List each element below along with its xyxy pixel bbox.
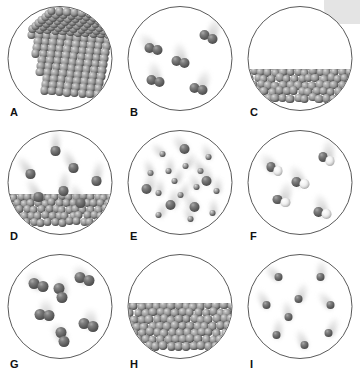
panel-g-content — [9, 255, 112, 358]
large-gas-atom — [166, 200, 176, 210]
panel-label-b: B — [130, 106, 138, 118]
panel-cell-b: B — [120, 0, 240, 124]
vapor-atom — [69, 163, 78, 172]
liquid-atom — [108, 219, 111, 227]
large-gas-atom — [190, 202, 200, 212]
diatomic-molecule-atom-2 — [38, 281, 49, 292]
diatomic-molecule-atom-2 — [83, 275, 94, 286]
panel-e-content — [129, 131, 232, 234]
diatomic-molecule-atom-2 — [155, 77, 165, 87]
diatomic-molecule-atom-2 — [87, 321, 98, 332]
heteronuclear-molecule-atom-2 — [281, 198, 291, 208]
small-gas-atom — [155, 190, 161, 196]
large-gas-atom — [202, 176, 212, 186]
vapor-atom — [59, 186, 68, 195]
vapor-atom — [51, 146, 60, 155]
small-gas-atom — [159, 151, 165, 157]
panel-label-a: A — [10, 106, 18, 118]
liquid-atom — [85, 218, 93, 226]
small-gas-atom — [193, 184, 199, 190]
panel-b-diatomic-gas[interactable] — [128, 6, 233, 111]
liquid-body — [9, 194, 112, 234]
panel-h-content — [129, 255, 232, 358]
panel-cell-d: D — [0, 124, 120, 248]
diatomic-molecule-atom-2 — [152, 45, 162, 55]
large-gas-atom — [180, 144, 190, 154]
lattice-atom — [108, 11, 112, 20]
vapor-atom — [76, 198, 85, 207]
panel-f-content — [249, 131, 352, 234]
liquid-atom — [159, 341, 168, 350]
particle-diagram-figure: A B C D E — [0, 0, 360, 382]
vapor-atom — [92, 176, 101, 185]
liquid-atom — [330, 95, 338, 103]
panel-h-liquid[interactable] — [128, 254, 233, 359]
liquid-atom — [300, 95, 308, 103]
liquid-atom — [100, 219, 108, 227]
heteronuclear-molecule-atom-2 — [273, 166, 283, 176]
vapor-atom — [34, 192, 43, 201]
small-gas-atom — [187, 216, 193, 222]
panel-d-liquid-vapor-equilibrium[interactable] — [8, 130, 113, 235]
panel-label-c: C — [250, 106, 258, 118]
vapor-atom — [26, 169, 35, 178]
gas-atom — [300, 341, 308, 349]
liquid-atom — [345, 94, 351, 102]
liquid-body — [129, 303, 232, 358]
panel-label-e: E — [130, 230, 138, 242]
panel-d-content — [9, 131, 112, 234]
liquid-atom — [286, 95, 294, 103]
panel-i-monatomic-gas[interactable] — [248, 254, 353, 359]
liquid-body — [249, 69, 352, 110]
panel-cell-g: G — [0, 248, 120, 376]
panel-label-d: D — [10, 230, 18, 242]
liquid-atom — [227, 342, 231, 351]
diatomic-molecule-atom-2 — [57, 292, 68, 303]
panel-grid: A B C D E — [0, 0, 360, 382]
panel-g-diatomic-gas[interactable] — [8, 254, 113, 359]
gas-atom — [274, 273, 282, 281]
small-gas-atom — [213, 188, 219, 194]
panel-c-content — [249, 7, 352, 110]
panel-i-content — [249, 255, 352, 358]
liquid-atom — [257, 93, 265, 101]
gas-atom — [326, 301, 334, 309]
panel-cell-h: H — [120, 248, 240, 376]
small-gas-atom — [205, 154, 211, 160]
diatomic-molecule-atom-2 — [44, 310, 55, 321]
lattice-atom — [93, 90, 102, 99]
heteronuclear-molecule-atom-2 — [300, 179, 310, 189]
liquid-atom — [136, 341, 145, 350]
panel-b-content — [129, 7, 232, 110]
gas-atom — [272, 331, 280, 339]
panel-a-crystalline-solid[interactable] — [8, 6, 113, 111]
panel-a-content — [9, 7, 112, 110]
panel-label-f: F — [250, 230, 257, 242]
large-gas-atom — [142, 184, 152, 194]
heteronuclear-molecule-atom-2 — [322, 209, 332, 219]
gas-atom — [262, 301, 270, 309]
panel-f-heteronuclear-diatomic-gas[interactable] — [248, 130, 353, 235]
panel-e-gas-mixture[interactable] — [128, 130, 233, 235]
diatomic-molecule-atom-2 — [58, 336, 69, 347]
diatomic-molecule-atom-2 — [180, 58, 190, 68]
panel-label-i: I — [250, 358, 253, 370]
panel-cell-a: A — [0, 0, 120, 124]
diatomic-molecule-atom-2 — [207, 34, 217, 44]
panel-c-liquid[interactable] — [248, 6, 353, 111]
gas-atom — [284, 313, 292, 321]
panel-cell-e: E — [120, 124, 240, 248]
heteronuclear-molecule-atom-2 — [325, 156, 335, 166]
small-gas-atom — [165, 168, 171, 174]
panel-cell-c: C — [240, 0, 360, 124]
panel-label-h: H — [130, 358, 138, 370]
panel-cell-f: F — [240, 124, 360, 248]
gas-atom — [316, 273, 324, 281]
panel-cell-i: I — [240, 248, 360, 376]
panel-label-g: G — [10, 358, 19, 370]
diatomic-molecule-atom-2 — [197, 85, 207, 95]
small-gas-atom — [209, 210, 215, 216]
